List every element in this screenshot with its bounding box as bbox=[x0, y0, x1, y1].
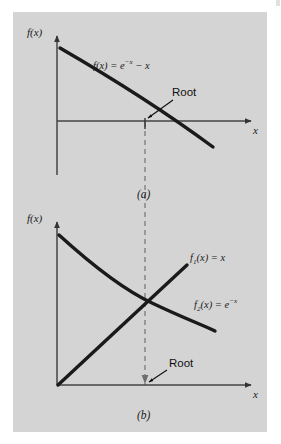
panel-b-curve1-suffix: (x) = x bbox=[196, 252, 225, 263]
panel-b-curve2-label: f2(x) = e−x bbox=[194, 297, 237, 313]
panel-b-curve-f1 bbox=[58, 265, 187, 385]
panel-b-curve-f2 bbox=[59, 235, 215, 331]
panel-a-equation-lhs: f(x) = e bbox=[93, 60, 125, 71]
panel-a-equation-exponent: −x bbox=[125, 58, 133, 66]
panel-a-root-label: Root bbox=[172, 86, 196, 98]
panel-b-curve2-exponent: −x bbox=[229, 297, 237, 305]
panel-b-x-axis-label: x bbox=[253, 388, 258, 400]
panel-b-root-arrowhead bbox=[142, 375, 149, 384]
panel-b-root-leader bbox=[149, 370, 167, 382]
panel-b-caption: (b) bbox=[137, 409, 150, 421]
panel-b-y-axis-label: f(x) bbox=[27, 212, 42, 224]
panel-b-root-label: Root bbox=[169, 357, 193, 369]
panel-a-equation-label: f(x) = e−x − x bbox=[93, 58, 150, 71]
panel-a-caption: (a) bbox=[137, 188, 150, 200]
figure-root-finding: f(x) x f(x) = e−x − x Root (a) f(x) x f1… bbox=[0, 0, 281, 444]
panel-a-y-axis-label: f(x) bbox=[27, 26, 42, 38]
panel-a-equation-rhs: − x bbox=[133, 60, 150, 71]
panel-b-curve2-suffix: (x) = e bbox=[200, 299, 229, 310]
panel-a-group bbox=[57, 36, 251, 175]
panel-a-x-axis-label: x bbox=[253, 124, 258, 136]
panel-b-curve1-label: f1(x) = x bbox=[190, 252, 225, 266]
